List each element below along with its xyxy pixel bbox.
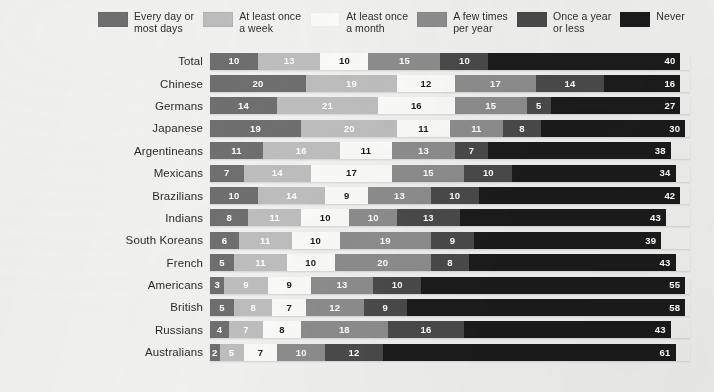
segment-value: 10 [229, 191, 240, 201]
segment-value: 34 [660, 168, 671, 178]
segment-value: 8 [250, 303, 255, 313]
segment-value: 3 [214, 280, 219, 290]
segment-value: 39 [645, 236, 656, 246]
segment-value: 7 [258, 348, 263, 358]
bar-segment: 10 [277, 344, 325, 361]
chart-row: Brazilians10149131042 [0, 184, 714, 206]
bar-segment: 7 [272, 299, 306, 316]
bar-segment: 27 [551, 97, 681, 114]
bar-segment: 16 [263, 142, 340, 159]
segment-value: 14 [564, 79, 575, 89]
bar-segment: 16 [388, 321, 465, 338]
segment-value: 11 [418, 124, 428, 134]
bar-segment: 15 [455, 97, 527, 114]
chart-row: Russians478181643 [0, 319, 714, 341]
chart-row: Japanese19201111830 [0, 117, 714, 139]
bar-segment: 20 [210, 75, 306, 92]
bar-segment: 43 [460, 209, 666, 226]
segment-value: 9 [382, 303, 387, 313]
segment-value: 10 [320, 213, 331, 223]
bar-segment: 13 [368, 187, 430, 204]
segment-value: 11 [255, 258, 265, 268]
segment-value: 10 [229, 56, 240, 66]
bar-segment: 15 [368, 53, 440, 70]
segment-value: 15 [399, 56, 410, 66]
bar-segment: 5 [220, 344, 244, 361]
row-label-americans: Americans [0, 279, 210, 291]
bar-segment: 10 [301, 209, 349, 226]
bar-segment: 34 [512, 165, 675, 182]
segment-value: 16 [296, 146, 307, 156]
segment-value: 14 [272, 168, 283, 178]
bar-segment: 11 [239, 232, 292, 249]
legend-item-label: At least once a week [239, 11, 301, 34]
segment-value: 20 [377, 258, 388, 268]
bar-segment: 16 [604, 75, 681, 92]
bar-segment: 13 [311, 277, 373, 294]
stacked-bar: 58712958 [210, 299, 690, 316]
chart-row: Total101310151040 [0, 50, 714, 72]
bar-segment: 9 [325, 187, 368, 204]
segment-value: 17 [346, 168, 357, 178]
bar-segment: 11 [210, 142, 263, 159]
bar-segment: 10 [440, 53, 488, 70]
segment-value: 9 [344, 191, 349, 201]
stacked-bar: 81110101343 [210, 209, 690, 226]
row-label-japanese: Japanese [0, 122, 210, 134]
bar-segment: 10 [210, 187, 258, 204]
bar-segment: 38 [488, 142, 670, 159]
segment-value: 5 [229, 348, 234, 358]
bar-segment: 10 [320, 53, 368, 70]
segment-value: 15 [485, 101, 496, 111]
segment-value: 10 [339, 56, 350, 66]
row-label-british: British [0, 301, 210, 313]
bar-segment: 10 [373, 277, 421, 294]
legend-swatch-icon [203, 12, 233, 27]
segment-value: 10 [392, 280, 403, 290]
bar-segment: 8 [234, 299, 272, 316]
row-label-south-koreans: South Koreans [0, 234, 210, 246]
bar-segment: 10 [287, 254, 335, 271]
stacked-bar: 399131055 [210, 277, 690, 294]
bar-segment: 17 [455, 75, 537, 92]
chart-row: Chinese201912171416 [0, 72, 714, 94]
segment-value: 18 [339, 325, 350, 335]
segment-value: 27 [664, 101, 675, 111]
bar-segment: 19 [306, 75, 397, 92]
bar-segment: 7 [210, 165, 244, 182]
segment-value: 13 [336, 280, 347, 290]
bar-segment: 8 [503, 120, 541, 137]
segment-value: 58 [669, 303, 680, 313]
segment-value: 19 [380, 236, 391, 246]
chart-row: Australians257101261 [0, 341, 714, 363]
bar-segment: 14 [536, 75, 603, 92]
segment-value: 16 [420, 325, 431, 335]
segment-value: 11 [270, 213, 280, 223]
legend-item-3: A few times per year [417, 11, 508, 34]
legend-item-0: Every day or most days [98, 11, 194, 34]
bar-segment: 12 [325, 344, 383, 361]
row-label-total: Total [0, 55, 210, 67]
segment-value: 12 [329, 303, 340, 313]
segment-value: 13 [284, 56, 295, 66]
segment-value: 4 [217, 325, 222, 335]
chart-row: Germans14211615527 [0, 95, 714, 117]
bar-segment: 14 [244, 165, 311, 182]
segment-value: 20 [253, 79, 264, 89]
row-label-russians: Russians [0, 324, 210, 336]
segment-value: 13 [394, 191, 405, 201]
bar-segment: 10 [431, 187, 479, 204]
legend-swatch-icon [417, 12, 447, 27]
bar-segment: 13 [397, 209, 459, 226]
bar-segment: 15 [392, 165, 464, 182]
bar-segment: 12 [306, 299, 364, 316]
bar-segment: 11 [234, 254, 287, 271]
bar-segment: 11 [248, 209, 301, 226]
legend-swatch-icon [310, 12, 340, 27]
segment-value: 43 [660, 258, 671, 268]
bar-segment: 42 [479, 187, 681, 204]
bar-segment: 40 [488, 53, 680, 70]
stacked-bar: 6111019939 [210, 232, 690, 249]
segment-value: 55 [669, 280, 680, 290]
segment-value: 10 [368, 213, 379, 223]
